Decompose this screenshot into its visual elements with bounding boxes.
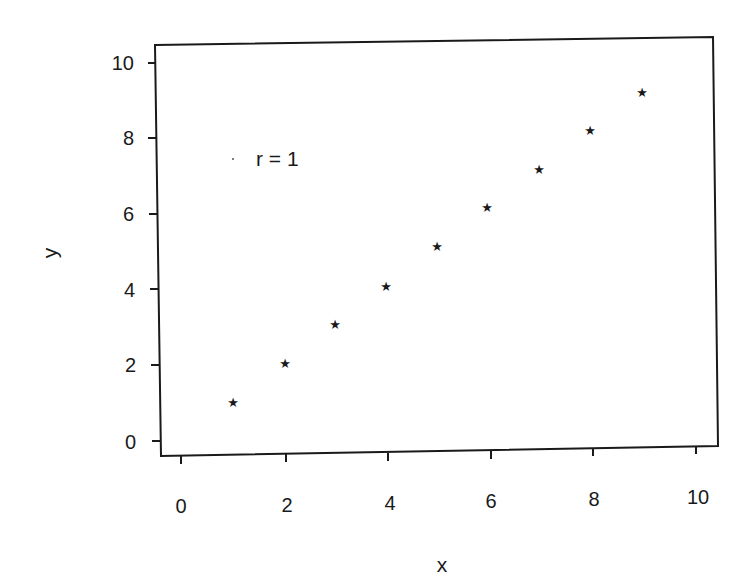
y-tick-label: 4: [124, 279, 135, 301]
scatter-chart: 10 8 6 4 2 0 0 2 4 6 8 10 x y r = 1 ★ ★ …: [0, 0, 746, 585]
data-point: ★: [431, 239, 443, 254]
data-point: ★: [584, 123, 596, 138]
data-point: ★: [329, 317, 341, 332]
data-point: ★: [380, 279, 392, 294]
y-axis-label: y: [38, 247, 61, 258]
y-tick-label: 2: [125, 354, 136, 376]
x-tick-label: 2: [281, 494, 292, 516]
data-point: ★: [279, 356, 291, 371]
annotation-dot: [232, 158, 234, 160]
y-tick-label: 0: [125, 431, 136, 453]
y-tick-label: 8: [123, 127, 134, 149]
x-tick-label: 4: [384, 492, 395, 514]
x-tick-label: 8: [588, 488, 599, 510]
x-tick-label: 10: [687, 486, 709, 508]
x-axis-tick-labels: 0 2 4 6 8 10: [175, 486, 709, 517]
x-axis-label: x: [437, 553, 448, 576]
y-tick-label: 6: [123, 203, 134, 225]
y-axis-tick-labels: 10 8 6 4 2 0: [112, 52, 136, 453]
data-point: ★: [481, 200, 493, 215]
data-point: ★: [636, 85, 648, 100]
data-point: ★: [227, 395, 239, 410]
x-tick-label: 6: [485, 490, 496, 512]
y-tick-label: 10: [112, 52, 134, 74]
data-points: ★ ★ ★ ★ ★ ★ ★ ★ ★: [227, 85, 648, 410]
data-point: ★: [533, 162, 545, 177]
x-tick-label: 0: [175, 495, 186, 517]
correlation-annotation: r = 1: [256, 147, 299, 170]
